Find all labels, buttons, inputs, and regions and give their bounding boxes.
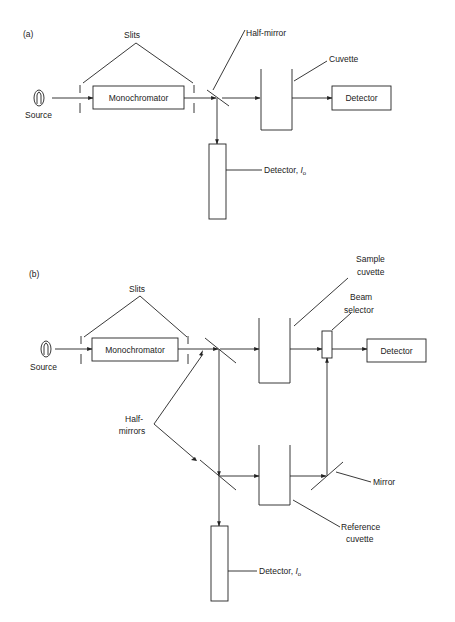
slits-pointer bbox=[84, 296, 187, 337]
slits-pointer bbox=[83, 43, 193, 83]
reference-cuvette-pointer bbox=[293, 500, 340, 527]
beam-selector bbox=[322, 331, 332, 358]
half-mirrors-pointer bbox=[154, 354, 203, 460]
reference-detector-box bbox=[211, 526, 228, 601]
reference-cuvette-label-2: cuvette bbox=[346, 534, 374, 544]
half-mirror-label: Half-mirror bbox=[246, 28, 286, 38]
beam-selector-label-2: selector bbox=[344, 305, 374, 315]
panel-b-label: (b) bbox=[29, 269, 40, 279]
source-lamp-icon bbox=[41, 341, 51, 357]
half-mirror-pointer bbox=[213, 30, 245, 90]
reference-cuvette-label-1: Reference bbox=[341, 522, 380, 532]
beam-selector-label-1: Beam bbox=[350, 292, 372, 302]
spectrophotometer-diagram: (a) Source Slits Monochromator Half-mirr… bbox=[0, 0, 455, 622]
half-mirrors-label-1: Half- bbox=[125, 414, 143, 424]
sample-cuvette-label-2: cuvette bbox=[357, 267, 385, 277]
detector-label: Detector bbox=[380, 346, 412, 356]
reference-detector-box bbox=[209, 144, 226, 219]
cuvette bbox=[261, 69, 292, 130]
reference-detector-label: Detector, Io bbox=[264, 165, 307, 176]
source-label: Source bbox=[25, 110, 52, 120]
half-mirror-2 bbox=[200, 460, 236, 490]
mirror-pointer bbox=[336, 472, 371, 482]
sample-cuvette bbox=[259, 318, 290, 383]
slits-label: Slits bbox=[129, 284, 145, 294]
reference-detector-label: Detector, Io bbox=[259, 566, 302, 577]
detector-label: Detector bbox=[345, 93, 377, 103]
monochromator-label: Monochromator bbox=[109, 93, 169, 103]
sample-cuvette-label-1: Sample bbox=[356, 254, 385, 264]
sample-cuvette-pointer bbox=[294, 278, 348, 326]
mirror-label: Mirror bbox=[373, 477, 395, 487]
cuvette-pointer bbox=[294, 61, 327, 81]
beam-selector-pointer bbox=[332, 313, 351, 330]
source-label: Source bbox=[30, 362, 57, 372]
panel-a-label: (a) bbox=[23, 29, 34, 39]
panel-a: (a) Source Slits Monochromator Half-mirr… bbox=[23, 28, 391, 219]
monochromator-label: Monochromator bbox=[105, 345, 165, 355]
slits-label: Slits bbox=[124, 30, 140, 40]
panel-b: (b) Source Slits Monochromator Sample cu… bbox=[29, 254, 426, 601]
half-mirrors-label-2: mirrors bbox=[119, 426, 145, 436]
source-lamp-icon bbox=[34, 90, 44, 106]
half-mirror-1 bbox=[205, 338, 236, 363]
cuvette-label: Cuvette bbox=[329, 54, 359, 64]
reference-cuvette bbox=[259, 445, 290, 505]
